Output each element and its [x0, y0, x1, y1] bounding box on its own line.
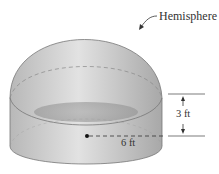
- radius-label: 6 ft: [121, 137, 135, 148]
- height-label: 3 ft: [176, 108, 190, 119]
- center-point: [85, 134, 89, 138]
- solid-body: [10, 40, 162, 165]
- hemisphere-label: Hemisphere: [159, 9, 217, 24]
- silo-diagram: [0, 0, 219, 174]
- hemisphere-pointer: [141, 16, 157, 27]
